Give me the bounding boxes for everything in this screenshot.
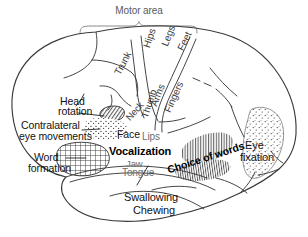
label-chewing: Chewing [133,205,175,217]
label-vocalization: Vocalization [109,146,171,158]
label-word-formation-line2: formation [28,163,71,174]
label-swallowing: Swallowing [124,192,178,204]
label-head-rotation-line2: rotation [58,106,92,117]
label-contralateral-line2: eye movements [19,131,92,142]
label-tongue: Tongue [122,168,154,179]
label-eye-fixation-line2: fixation [240,152,274,164]
label-face: Face [117,129,140,140]
brain-motor-area-diagram: Motor area Trunk Hips Legs Feet Arms Fin… [0,0,308,237]
figure-title: Motor area [103,6,175,17]
label-lips: Lips [142,132,160,143]
